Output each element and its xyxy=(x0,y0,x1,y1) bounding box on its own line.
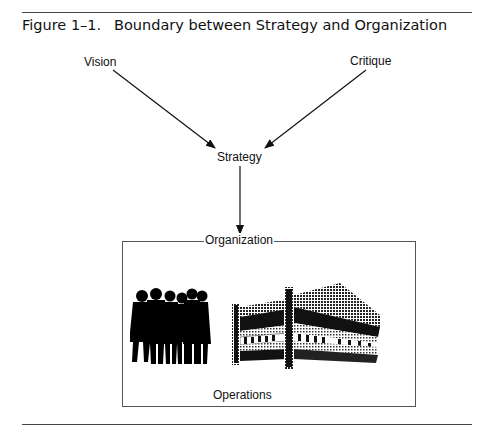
bottom-rule xyxy=(22,424,472,425)
strategy-label: Strategy xyxy=(217,150,262,164)
people-icon xyxy=(130,288,212,366)
organization-label: Organization xyxy=(204,233,274,247)
building-icon xyxy=(228,277,384,369)
critique-label: Critique xyxy=(350,54,391,68)
operations-label: Operations xyxy=(213,388,272,402)
vision-label: Vision xyxy=(84,55,116,69)
arrow-vision-strategy xyxy=(113,70,215,148)
arrow-critique-strategy xyxy=(265,70,366,148)
